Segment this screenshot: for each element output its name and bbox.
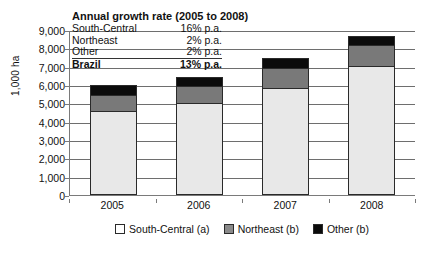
bar-segment-other bbox=[262, 58, 309, 67]
legend-swatch-icon bbox=[313, 224, 323, 234]
chart-legend: South-Central (a) Northeast (b) Other (b… bbox=[69, 223, 415, 235]
bar-segment-south-central bbox=[262, 88, 309, 195]
x-tick-mark bbox=[329, 199, 330, 203]
y-axis-ticks: 9,0008,0007,0006,0005,0004,0003,0002,000… bbox=[15, 31, 65, 196]
x-tick-label: 2008 bbox=[348, 199, 395, 211]
y-tick-label: 3,000 bbox=[19, 135, 65, 147]
x-tick-label: 2007 bbox=[262, 199, 309, 211]
legend-swatch-icon bbox=[224, 224, 234, 234]
y-tick-label: 2,000 bbox=[19, 153, 65, 165]
x-tick-mark bbox=[242, 199, 243, 203]
bar-segment-northeast bbox=[176, 86, 223, 103]
y-tick-label: 6,000 bbox=[19, 80, 65, 92]
bar-segment-south-central bbox=[90, 111, 137, 195]
bar-segment-northeast bbox=[262, 68, 309, 88]
x-tick-label: 2006 bbox=[175, 199, 222, 211]
y-tick-label: 9,000 bbox=[19, 25, 65, 37]
x-tick-mark bbox=[415, 199, 416, 203]
y-tick-label: 7,000 bbox=[19, 62, 65, 74]
y-tick-mark bbox=[65, 196, 69, 197]
y-tick-label: 1,000 bbox=[19, 172, 65, 184]
y-tick-label: 5,000 bbox=[19, 98, 65, 110]
annotation-row: South-Central 16% p.a. bbox=[72, 23, 248, 35]
bar-segment-other bbox=[90, 85, 137, 95]
x-tick-mark bbox=[156, 199, 157, 203]
y-tick-label: 0 bbox=[19, 190, 65, 202]
annotation-value: 16% p.a. bbox=[158, 23, 222, 35]
annotation-box: Annual growth rate (2005 to 2008) South-… bbox=[72, 10, 248, 70]
x-tick-label: 2005 bbox=[89, 199, 136, 211]
bar-chart: 1,000 ha 9,0008,0007,0006,0005,0004,0003… bbox=[0, 0, 428, 253]
x-tick-mark bbox=[69, 199, 70, 203]
bar-segment-other bbox=[348, 36, 395, 45]
legend-swatch-icon bbox=[115, 224, 125, 234]
legend-label: Other (b) bbox=[327, 223, 369, 235]
annotation-total-value: 13% p.a. bbox=[158, 59, 222, 71]
legend-label: Northeast (b) bbox=[238, 223, 299, 235]
annotation-label: South-Central bbox=[72, 23, 158, 35]
bar-column[interactable] bbox=[262, 31, 309, 195]
annotation-total-label: Brazil bbox=[72, 59, 158, 71]
x-axis-labels: 2005200620072008 bbox=[69, 199, 415, 215]
bar-segment-northeast bbox=[90, 95, 137, 111]
annotation-row: Other 2% p.a. bbox=[72, 46, 248, 58]
bar-column[interactable] bbox=[348, 31, 395, 195]
legend-label: South-Central (a) bbox=[129, 223, 210, 235]
bar-segment-other bbox=[176, 77, 223, 86]
legend-item-northeast: Northeast (b) bbox=[224, 223, 299, 235]
bar-segment-south-central bbox=[348, 66, 395, 195]
legend-item-south-central: South-Central (a) bbox=[115, 223, 210, 235]
annotation-value: 2% p.a. bbox=[158, 46, 222, 58]
y-tick-label: 4,000 bbox=[19, 117, 65, 129]
annotation-label: Other bbox=[72, 46, 158, 58]
bar-segment-south-central bbox=[176, 103, 223, 195]
y-tick-label: 8,000 bbox=[19, 43, 65, 55]
annotation-title: Annual growth rate (2005 to 2008) bbox=[72, 10, 248, 22]
annotation-total-row: Brazil 13% p.a. bbox=[72, 59, 248, 71]
legend-item-other: Other (b) bbox=[313, 223, 369, 235]
bar-segment-northeast bbox=[348, 45, 395, 66]
